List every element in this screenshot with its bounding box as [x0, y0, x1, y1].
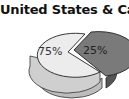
- label-75: 75%: [38, 45, 62, 58]
- label-25: 25%: [83, 44, 107, 57]
- pie-chart: 75% 25%: [0, 0, 129, 99]
